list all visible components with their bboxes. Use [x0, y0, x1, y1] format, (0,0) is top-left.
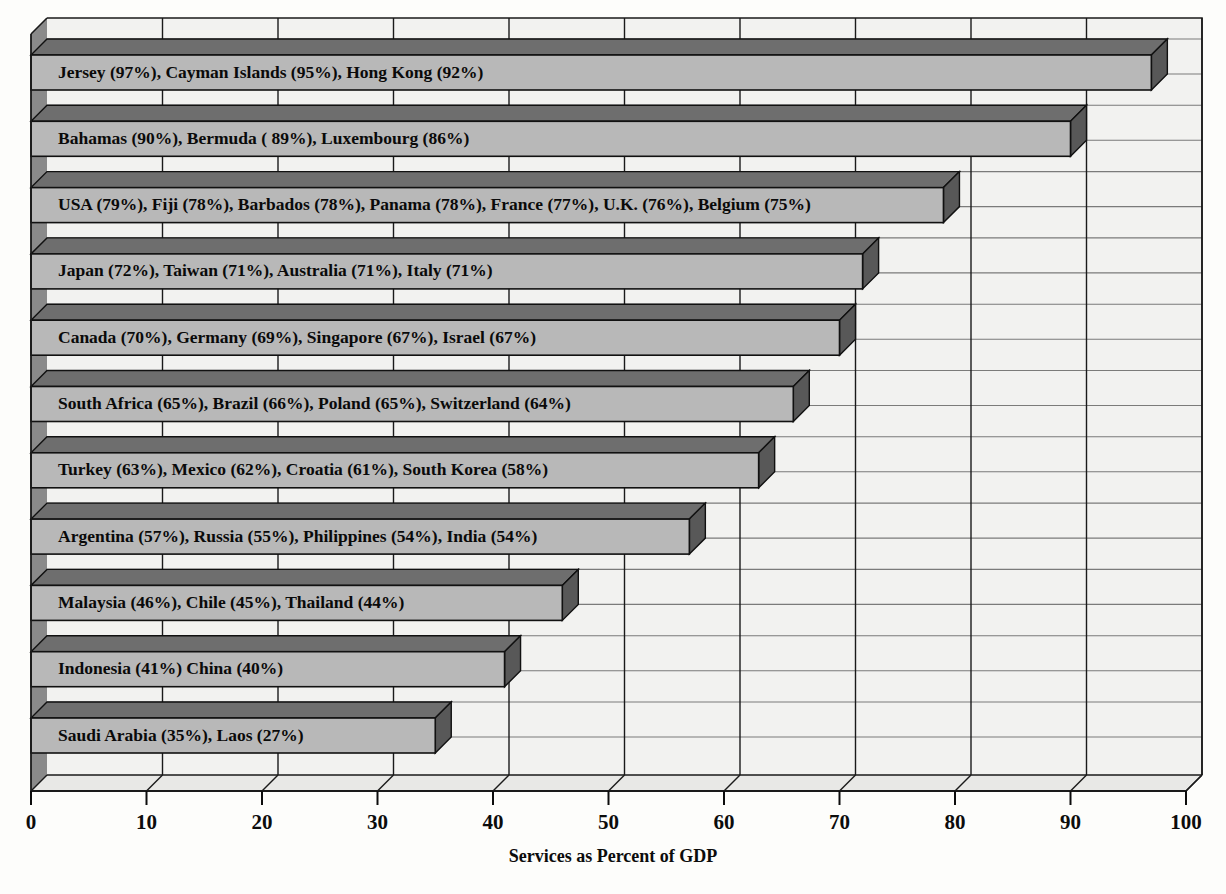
- x-axis-tick-label: 90: [1060, 810, 1081, 834]
- x-axis-tick-label: 40: [483, 810, 504, 834]
- bar: Malaysia (46%), Chile (45%), Thailand (4…: [31, 569, 578, 620]
- bar: USA (79%), Fiji (78%), Barbados (78%), P…: [31, 172, 959, 223]
- bar-label: Jersey (97%), Cayman Islands (95%), Hong…: [58, 62, 484, 82]
- bar: Argentina (57%), Russia (55%), Philippin…: [31, 503, 705, 554]
- bar-top-face: [31, 304, 856, 320]
- x-axis-tick-label: 10: [136, 810, 157, 834]
- bar-label: South Africa (65%), Brazil (66%), Poland…: [58, 393, 571, 413]
- bar-top-face: [31, 238, 879, 254]
- chart-canvas: Jersey (97%), Cayman Islands (95%), Hong…: [0, 0, 1226, 894]
- x-axis-tick-label: 100: [1170, 810, 1202, 834]
- x-axis-tick-label: 20: [252, 810, 273, 834]
- bar-label: Canada (70%), Germany (69%), Singapore (…: [58, 327, 536, 347]
- bar-top-face: [31, 437, 775, 453]
- bar-top-face: [31, 172, 959, 188]
- bar-top-face: [31, 371, 809, 387]
- bar: Bahamas (90%), Bermuda ( 89%), Luxembour…: [31, 105, 1087, 156]
- bar-top-face: [31, 569, 578, 585]
- bar-top-face: [31, 702, 451, 718]
- bar: Canada (70%), Germany (69%), Singapore (…: [31, 304, 856, 355]
- bar-label: Japan (72%), Taiwan (71%), Australia (71…: [58, 260, 493, 280]
- bar: Indonesia (41%) China (40%): [31, 636, 521, 687]
- x-axis-tick-label: 50: [598, 810, 619, 834]
- bar: Saudi Arabia (35%), Laos (27%): [31, 702, 451, 753]
- bar-top-face: [31, 503, 705, 519]
- x-axis-tick-label: 70: [829, 810, 850, 834]
- bar: South Africa (65%), Brazil (66%), Poland…: [31, 371, 809, 422]
- services-gdp-bar-chart: Jersey (97%), Cayman Islands (95%), Hong…: [0, 0, 1226, 894]
- bar-top-face: [31, 105, 1087, 121]
- bar: Turkey (63%), Mexico (62%), Croatia (61%…: [31, 437, 775, 488]
- bar-top-face: [31, 636, 521, 652]
- bar: Jersey (97%), Cayman Islands (95%), Hong…: [31, 39, 1167, 90]
- x-axis-tick-label: 60: [714, 810, 735, 834]
- bar-top-face: [31, 39, 1167, 55]
- bar-label: USA (79%), Fiji (78%), Barbados (78%), P…: [58, 194, 811, 214]
- bar-label: Turkey (63%), Mexico (62%), Croatia (61%…: [58, 459, 548, 479]
- bar: Japan (72%), Taiwan (71%), Australia (71…: [31, 238, 879, 289]
- x-axis-title: Services as Percent of GDP: [509, 846, 718, 866]
- bar-label: Bahamas (90%), Bermuda ( 89%), Luxembour…: [58, 128, 469, 148]
- x-axis-tick-label: 80: [945, 810, 966, 834]
- bar-label: Malaysia (46%), Chile (45%), Thailand (4…: [58, 592, 404, 612]
- x-axis-tick-label: 0: [26, 810, 37, 834]
- bar-label: Argentina (57%), Russia (55%), Philippin…: [58, 526, 538, 546]
- bar-label: Indonesia (41%) China (40%): [58, 658, 283, 678]
- bar-label: Saudi Arabia (35%), Laos (27%): [58, 725, 304, 745]
- x-axis-tick-label: 30: [367, 810, 388, 834]
